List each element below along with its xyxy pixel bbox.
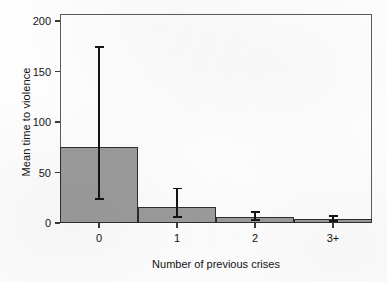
- error-bar-cap-top: [251, 211, 260, 213]
- error-bar-cap-top: [329, 215, 338, 217]
- error-bar-cap-bottom: [329, 220, 338, 222]
- error-bar: [329, 215, 338, 222]
- y-tick: [55, 71, 60, 72]
- figure: Mean time to violence Number of previous…: [0, 0, 387, 282]
- y-tick: [55, 20, 60, 21]
- error-bar-stem: [176, 188, 178, 218]
- x-tick: [98, 223, 99, 228]
- error-bar: [251, 211, 260, 221]
- x-tick-label: 3+: [303, 232, 363, 244]
- error-bar-cap-top: [95, 46, 104, 48]
- x-tick: [332, 223, 333, 228]
- x-tick-label: 1: [147, 232, 207, 244]
- plot-area: 050100150200 0123+: [60, 14, 372, 223]
- y-tick-label: 0: [11, 217, 51, 229]
- x-tick: [254, 223, 255, 228]
- y-tick-label: 100: [11, 116, 51, 128]
- error-bar-cap-bottom: [251, 219, 260, 221]
- y-tick-label: 200: [11, 15, 51, 27]
- y-tick-label: 150: [11, 66, 51, 78]
- x-tick-label: 0: [69, 232, 129, 244]
- x-axis-label: Number of previous crises: [60, 258, 372, 270]
- error-bar-stem: [98, 46, 100, 199]
- y-tick: [55, 121, 60, 122]
- x-tick-label: 2: [225, 232, 285, 244]
- error-bar: [95, 46, 104, 199]
- x-tick: [176, 223, 177, 228]
- error-bar-cap-bottom: [173, 216, 182, 218]
- error-bar: [173, 188, 182, 218]
- error-bar-cap-top: [173, 188, 182, 190]
- error-bar-cap-bottom: [95, 198, 104, 200]
- y-tick-label: 50: [11, 167, 51, 179]
